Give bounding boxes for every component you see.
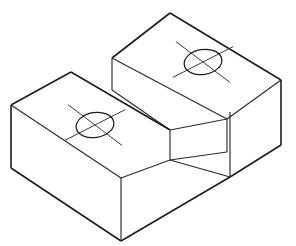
face-fill-group [11,13,281,241]
isometric-block-figure [0,0,296,246]
technical-drawing-canvas: Isometric Slot Block U-shaped slotted re… [0,0,296,246]
